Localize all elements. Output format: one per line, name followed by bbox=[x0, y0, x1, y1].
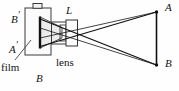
label-b-prime-mark: ′ bbox=[18, 10, 20, 20]
point-A-dot bbox=[155, 10, 158, 13]
point-B-dot bbox=[155, 63, 158, 66]
label-b-prime: B′ bbox=[11, 11, 20, 25]
label-lens-letter: L bbox=[66, 5, 72, 16]
label-camera-b: B bbox=[36, 73, 43, 84]
ray-diagram-svg bbox=[0, 0, 179, 91]
label-film: film bbox=[1, 62, 19, 73]
label-object-a: A bbox=[165, 2, 172, 13]
label-a-prime-letter: A bbox=[9, 43, 16, 55]
label-b-prime-letter: B bbox=[11, 13, 18, 25]
camera-top-knob bbox=[33, 4, 42, 9]
label-lens-word: lens bbox=[56, 57, 74, 68]
label-object-b: B bbox=[165, 58, 172, 69]
label-a-prime: A′ bbox=[9, 41, 18, 55]
label-a-prime-mark: ′ bbox=[16, 40, 18, 50]
figure-root: B′ A′ film L lens B A B bbox=[0, 0, 179, 91]
